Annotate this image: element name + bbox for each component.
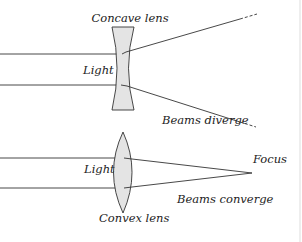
convex-lens bbox=[114, 132, 133, 213]
beams-diverge-label: Beams diverge bbox=[161, 113, 249, 127]
converging-ray-top bbox=[132, 159, 252, 173]
lens-diagram: Concave lens Light Beams diverge Light F… bbox=[0, 0, 302, 242]
concave-light-label: Light bbox=[82, 63, 114, 77]
focus-label: Focus bbox=[252, 152, 287, 166]
convex-lens-label: Convex lens bbox=[99, 211, 169, 225]
convex-lens-group: Light Focus Beams converge Convex lens bbox=[0, 132, 287, 225]
concave-lens bbox=[112, 27, 134, 110]
concave-lens-group: Concave lens Light Beams diverge bbox=[0, 11, 257, 127]
converging-ray-bottom bbox=[132, 173, 252, 187]
convex-light-label: Light bbox=[83, 162, 115, 176]
beams-converge-label: Beams converge bbox=[176, 192, 274, 206]
diverging-ray-top-dashed bbox=[240, 14, 257, 19]
concave-lens-label: Concave lens bbox=[91, 11, 168, 25]
